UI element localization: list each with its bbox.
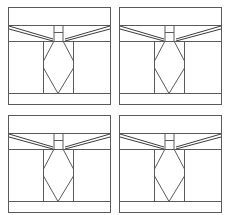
lower-v-left [44, 176, 59, 202]
hex-right-upper-edge [63, 41, 74, 68]
diagram-panel-bottom-left [7, 114, 112, 214]
hex-right-upper-edge [174, 149, 185, 176]
panel-drawing [118, 114, 223, 214]
panel-drawing [118, 6, 223, 106]
hex-right-upper-edge [63, 149, 74, 176]
panel-drawing [7, 114, 112, 214]
right-brace [176, 26, 221, 41]
right-brace [176, 134, 221, 149]
diagram-panel-top-right [118, 6, 223, 106]
lower-v-left [155, 68, 170, 94]
left-brace [120, 134, 164, 149]
hex-left-upper-edge [44, 149, 55, 176]
lower-v-right [58, 176, 74, 202]
center-h-post [54, 134, 63, 149]
outer-frame [9, 8, 111, 105]
outer-frame [9, 116, 111, 213]
center-h-post [54, 26, 63, 41]
lower-v-left [44, 68, 59, 94]
hex-right-upper-edge [174, 41, 185, 68]
right-brace [65, 134, 110, 149]
lower-v-right [58, 68, 74, 94]
diagram-panel-top-left [7, 6, 112, 106]
hex-left-upper-edge [155, 41, 166, 68]
lower-v-right [169, 176, 185, 202]
outer-frame [120, 116, 222, 213]
lower-v-right [169, 68, 185, 94]
hex-left-upper-edge [44, 41, 55, 68]
panel-drawing [7, 6, 112, 106]
diagram-panel-bottom-right [118, 114, 223, 214]
figure-grid [0, 0, 226, 215]
center-h-post [165, 26, 174, 41]
left-brace [120, 26, 164, 41]
lower-v-left [155, 176, 170, 202]
left-brace [9, 26, 53, 41]
left-brace [9, 134, 53, 149]
right-brace [65, 26, 110, 41]
center-h-post [165, 134, 174, 149]
outer-frame [120, 8, 222, 105]
hex-left-upper-edge [155, 149, 166, 176]
